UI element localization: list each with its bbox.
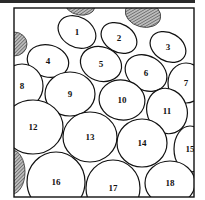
cell-label: 2: [117, 33, 122, 43]
cell-label: 18: [166, 178, 176, 188]
cell-label: 7: [184, 78, 189, 88]
cell-label: 11: [163, 106, 172, 116]
cell-label: 17: [109, 183, 119, 193]
cell-label: 10: [118, 95, 128, 105]
cell-label: 9: [68, 89, 73, 99]
hatched-left-bottom-blob: [0, 150, 25, 194]
cell-label: 5: [99, 59, 104, 69]
diagram-content: 123456789101112131415161718: [0, 0, 205, 200]
cell-13: 13: [63, 112, 117, 162]
cell-label: 12: [29, 122, 39, 132]
cell-label: 6: [144, 68, 149, 78]
cell-label: 16: [52, 177, 62, 187]
cell-packing-diagram: 123456789101112131415161718: [0, 0, 205, 200]
cell-label: 4: [46, 56, 51, 66]
cell-12: 12: [3, 100, 63, 154]
cell-label: 3: [166, 42, 171, 52]
cell-label: 13: [86, 132, 96, 142]
cell-label: 8: [20, 81, 25, 91]
cell-label: 14: [138, 138, 148, 148]
cell-label: 1: [75, 27, 80, 37]
cell-18: 18: [145, 161, 195, 200]
cell-14: 14: [117, 119, 167, 167]
